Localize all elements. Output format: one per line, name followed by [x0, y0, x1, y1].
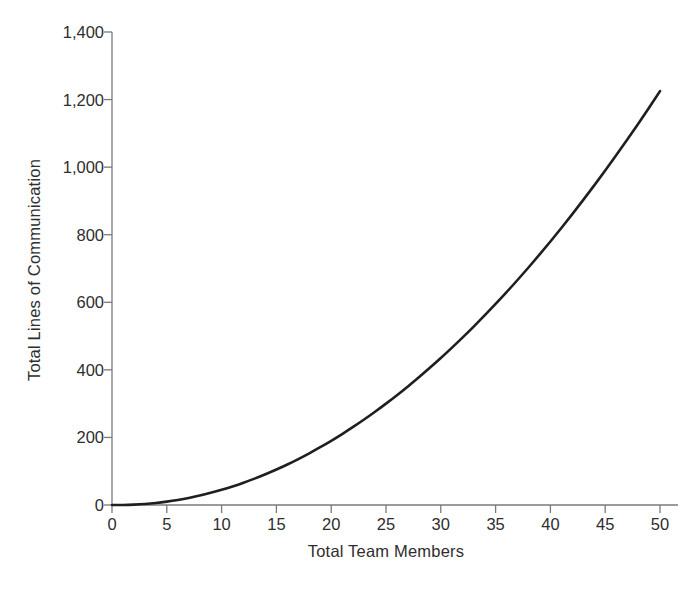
x-axis-tick-labels: 05101520253035404550: [0, 515, 694, 545]
plot-area: [0, 0, 694, 590]
x-axis-tick-label: 0: [82, 515, 142, 534]
x-axis-tick-label: 40: [520, 515, 580, 534]
axis-lines: [112, 32, 678, 505]
chart-figure: Total Lines of Communication 02004006008…: [0, 0, 694, 590]
series-line-total-lines-of-communication: [112, 91, 660, 505]
x-axis-tick-label: 25: [356, 515, 416, 534]
x-axis-tick-label: 10: [192, 515, 252, 534]
x-axis-tick-label: 45: [575, 515, 635, 534]
x-axis-tick-label: 35: [466, 515, 526, 534]
x-axis-ticks: [112, 505, 660, 513]
x-axis-tick-label: 15: [246, 515, 306, 534]
x-axis-tick-label: 30: [411, 515, 471, 534]
x-axis-tick-label: 50: [630, 515, 690, 534]
y-axis-ticks: [104, 32, 112, 505]
x-axis-tick-label: 20: [301, 515, 361, 534]
x-axis-tick-label: 5: [137, 515, 197, 534]
x-axis-title: Total Team Members: [112, 542, 660, 561]
